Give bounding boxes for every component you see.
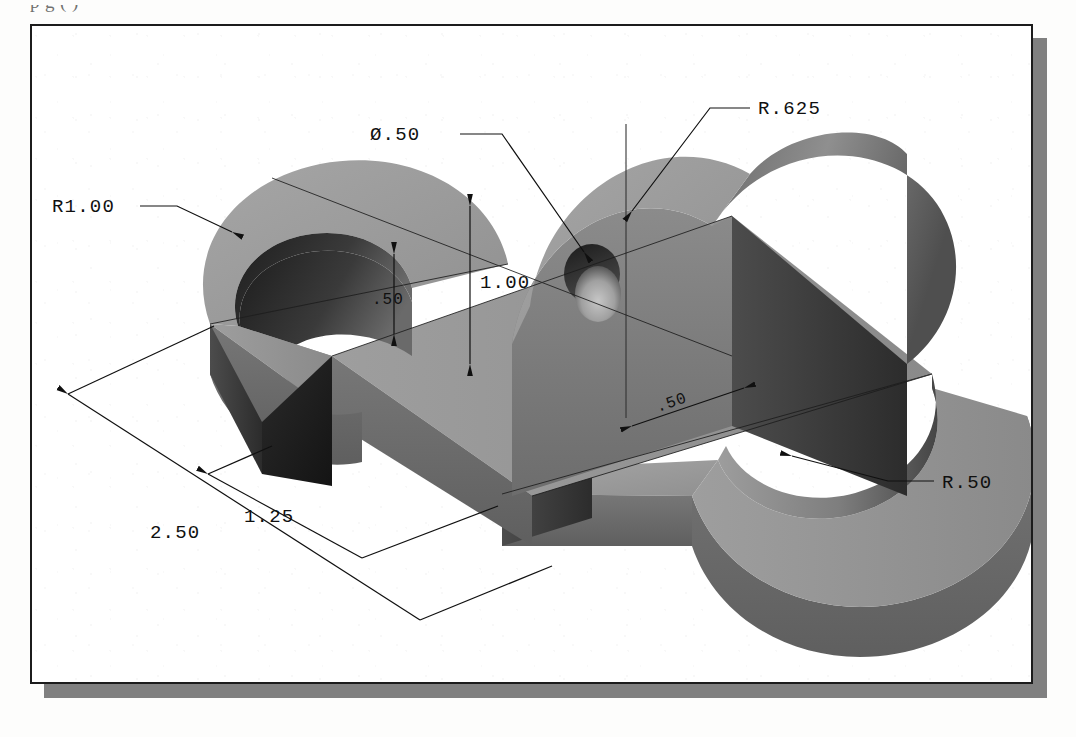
dim-len-1-25-label: 1.25 [244,506,294,528]
drawing-frame: R1.00 Ø.50 R.625 R.50 [30,24,1033,684]
dim-r1-00-label: R1.00 [52,196,115,218]
scanned-page: p g ( ) [0,0,1076,737]
dim-len-1-25-ext2 [362,506,498,558]
clipped-heading-text: p g ( ) [30,0,79,13]
boss-right-wall [732,216,907,496]
isometric-drawing: R1.00 Ø.50 R.625 R.50 [32,26,1031,682]
dim-len-2-50-ext2 [420,566,552,620]
solid-model [203,124,1031,657]
dim-r1-00[interactable]: R1.00 [52,196,232,232]
dim-len-2-50-label: 2.50 [150,522,200,544]
dim-r-50-label: R.50 [942,472,992,494]
dim-len-2-50-line [68,326,214,394]
hole-bore [575,266,621,322]
dim-dia-50-label: Ø.50 [370,124,420,146]
upright-boss [512,124,956,496]
dim-r-625-label: R.625 [758,98,821,120]
dim-h-1-00-label: 1.00 [480,272,530,294]
boss-front-face [512,208,732,496]
dim-r1-00-leader [140,206,232,232]
dim-h-50-label: .50 [372,291,404,309]
